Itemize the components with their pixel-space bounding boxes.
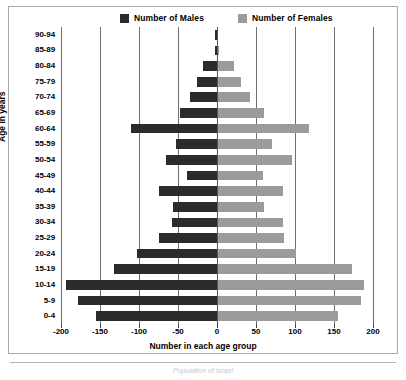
bar-female-60-64 bbox=[217, 124, 309, 134]
bar-male-20-24 bbox=[137, 249, 217, 259]
legend-swatch-males bbox=[120, 14, 129, 23]
x-tick-label--50: -50 bbox=[172, 328, 184, 336]
gridline-200 bbox=[373, 27, 374, 324]
x-tick-label-50: 50 bbox=[252, 328, 261, 336]
bar-female-80-84 bbox=[217, 61, 234, 71]
population-pyramid-figure: Number of Males Number of Females Age in… bbox=[0, 0, 406, 380]
x-tick-label--100: -100 bbox=[131, 328, 147, 336]
y-tick-label-35-39: 35-39 bbox=[35, 203, 55, 211]
legend-label-females: Number of Females bbox=[252, 14, 333, 23]
bar-female-30-34 bbox=[217, 218, 283, 228]
chart-legend: Number of Males Number of Females bbox=[120, 11, 360, 25]
figure-caption: Population of Israel bbox=[0, 367, 406, 374]
bar-female-55-59 bbox=[217, 139, 272, 149]
x-tick-label-0: 0 bbox=[215, 328, 219, 336]
y-tick-label-70-74: 70-74 bbox=[35, 93, 55, 101]
bar-female-40-44 bbox=[217, 186, 283, 196]
bar-female-65-69 bbox=[217, 108, 264, 118]
bar-female-25-29 bbox=[217, 233, 284, 243]
y-tick-label-15-19: 15-19 bbox=[35, 265, 55, 273]
y-tick-label-20-24: 20-24 bbox=[35, 250, 55, 258]
bar-male-35-39 bbox=[173, 202, 217, 212]
y-tick-label-85-89: 85-89 bbox=[35, 46, 55, 54]
caption-divider bbox=[10, 362, 396, 363]
bar-male-0-4 bbox=[96, 311, 217, 321]
bar-male-55-59 bbox=[176, 139, 217, 149]
bar-male-75-79 bbox=[197, 77, 217, 87]
plot-area bbox=[61, 27, 373, 324]
y-tick-label-5-9: 5-9 bbox=[44, 297, 55, 305]
legend-entry-males: Number of Males bbox=[120, 14, 204, 23]
x-tick-label-200: 200 bbox=[366, 328, 379, 336]
gridline-0 bbox=[217, 27, 218, 324]
y-tick-label-60-64: 60-64 bbox=[35, 125, 55, 133]
legend-entry-females: Number of Females bbox=[238, 14, 333, 23]
bar-female-10-14 bbox=[217, 280, 364, 290]
bar-male-10-14 bbox=[66, 280, 217, 290]
y-tick-label-80-84: 80-84 bbox=[35, 62, 55, 70]
y-tick-label-50-54: 50-54 bbox=[35, 156, 55, 164]
bar-female-35-39 bbox=[217, 202, 264, 212]
bar-male-65-69 bbox=[180, 108, 217, 118]
y-tick-label-30-34: 30-34 bbox=[35, 218, 55, 226]
legend-swatch-females bbox=[238, 14, 247, 23]
bar-female-45-49 bbox=[217, 171, 263, 181]
x-tick-label-100: 100 bbox=[288, 328, 301, 336]
bar-female-20-24 bbox=[217, 249, 296, 259]
bar-male-60-64 bbox=[131, 124, 217, 134]
bar-male-25-29 bbox=[159, 233, 218, 243]
bar-female-0-4 bbox=[217, 311, 338, 321]
bar-male-70-74 bbox=[190, 92, 217, 102]
y-tick-label-65-69: 65-69 bbox=[35, 109, 55, 117]
x-tick-label--200: -200 bbox=[53, 328, 69, 336]
bar-male-5-9 bbox=[78, 296, 217, 306]
y-tick-label-0-4: 0-4 bbox=[44, 312, 55, 320]
bar-male-40-44 bbox=[159, 186, 217, 196]
x-axis-tick-labels: -200-150-100-50050100150200 bbox=[61, 328, 373, 340]
bar-male-80-84 bbox=[203, 61, 217, 71]
x-tick-label--150: -150 bbox=[92, 328, 108, 336]
bar-female-50-54 bbox=[217, 155, 292, 165]
bar-male-50-54 bbox=[166, 155, 217, 165]
bar-female-75-79 bbox=[217, 77, 241, 87]
bar-male-30-34 bbox=[172, 218, 217, 228]
legend-label-males: Number of Males bbox=[134, 14, 204, 23]
y-axis-title: Age in years bbox=[0, 91, 7, 142]
y-tick-label-40-44: 40-44 bbox=[35, 187, 55, 195]
bar-male-45-49 bbox=[187, 171, 217, 181]
x-tick-label-150: 150 bbox=[327, 328, 340, 336]
x-axis-title: Number in each age group bbox=[0, 342, 406, 351]
bar-female-70-74 bbox=[217, 92, 250, 102]
bar-male-15-19 bbox=[114, 264, 217, 274]
y-tick-label-25-29: 25-29 bbox=[35, 234, 55, 242]
bar-female-15-19 bbox=[217, 264, 352, 274]
y-tick-label-55-59: 55-59 bbox=[35, 140, 55, 148]
y-tick-label-90-94: 90-94 bbox=[35, 31, 55, 39]
y-tick-label-10-14: 10-14 bbox=[35, 281, 55, 289]
y-tick-label-45-49: 45-49 bbox=[35, 172, 55, 180]
bar-female-5-9 bbox=[217, 296, 361, 306]
y-tick-label-75-79: 75-79 bbox=[35, 78, 55, 86]
y-axis-tick-labels: 0-45-910-1415-1920-2425-2930-3435-3940-4… bbox=[8, 27, 58, 324]
